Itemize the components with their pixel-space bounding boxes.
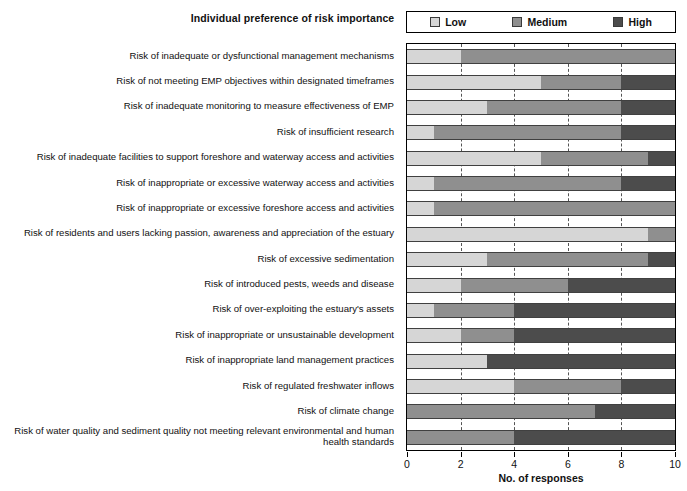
y-axis-label: Risk of introduced pests, weeds and dise… <box>204 278 394 290</box>
stacked-bar <box>407 151 675 166</box>
bar-segment-medium <box>648 227 675 242</box>
x-axis-title: No. of responses <box>406 472 676 484</box>
x-axis-tick-label: 8 <box>618 458 624 470</box>
y-axis-label: Risk of inadequate facilities to support… <box>37 151 394 163</box>
bar-segment-medium <box>434 303 514 318</box>
legend-item-high: High <box>613 16 651 28</box>
x-axis-tick <box>407 452 408 457</box>
legend-swatch-medium-icon <box>512 17 522 27</box>
bar-segment-high <box>621 176 675 191</box>
stacked-bar <box>407 252 675 267</box>
bar-segment-high <box>487 354 675 369</box>
bar-segment-low <box>407 176 434 191</box>
x-axis-tick-label: 10 <box>669 458 681 470</box>
x-axis-tick-label: 6 <box>565 458 571 470</box>
legend-item-medium: Medium <box>512 16 567 28</box>
bar-segment-low <box>407 303 434 318</box>
legend-label-medium: Medium <box>527 16 567 28</box>
stacked-bar <box>407 404 675 419</box>
stacked-bar <box>407 125 675 140</box>
bar-segment-high <box>595 404 675 419</box>
x-axis-tick-label: 0 <box>404 458 410 470</box>
bar-segment-low <box>407 252 487 267</box>
legend-item-low: Low <box>430 16 466 28</box>
bar-segment-medium <box>461 328 515 343</box>
bar-segment-medium <box>434 176 622 191</box>
bar-segment-low <box>407 227 648 242</box>
x-axis-tick <box>461 452 462 457</box>
bar-segment-low <box>407 75 541 90</box>
chart-legend: Low Medium High <box>406 11 676 33</box>
stacked-bar <box>407 176 675 191</box>
y-axis-label: Risk of not meeting EMP objectives withi… <box>116 75 394 87</box>
y-axis-label: Risk of inappropriate or excessive water… <box>116 177 394 189</box>
y-axis-label: Risk of regulated freshwater inflows <box>243 380 394 392</box>
x-axis-tick <box>621 452 622 457</box>
bar-segment-high <box>648 151 675 166</box>
legend-label-high: High <box>628 16 651 28</box>
bar-segment-medium <box>434 201 675 216</box>
bar-segment-medium <box>407 404 595 419</box>
stacked-bar <box>407 100 675 115</box>
stacked-bar <box>407 430 675 445</box>
y-axis-category-labels: Risk of inadequate or dysfunctional mana… <box>0 43 400 451</box>
chart-figure: Individual preference of risk importance… <box>0 0 687 491</box>
y-axis-label: Risk of inappropriate land management pr… <box>185 354 394 366</box>
bar-segment-medium <box>407 430 514 445</box>
legend-swatch-low-icon <box>430 17 440 27</box>
bar-segment-low <box>407 151 541 166</box>
bar-segment-medium <box>541 75 621 90</box>
bar-segment-high <box>648 252 675 267</box>
stacked-bar <box>407 201 675 216</box>
x-axis-tick-label: 4 <box>511 458 517 470</box>
bar-segment-medium <box>487 252 648 267</box>
bar-segment-medium <box>541 151 648 166</box>
y-axis-label: Risk of residents and users lacking pass… <box>24 227 394 239</box>
bar-segment-low <box>407 278 461 293</box>
chart-title: Individual preference of risk importance <box>180 12 405 24</box>
plot-inner <box>407 44 675 450</box>
stacked-bar <box>407 227 675 242</box>
stacked-bar <box>407 49 675 64</box>
bar-segment-low <box>407 49 461 64</box>
y-axis-label: Risk of inadequate or dysfunctional mana… <box>129 50 394 62</box>
bar-segment-medium <box>514 379 621 394</box>
stacked-bar <box>407 328 675 343</box>
bar-segment-high <box>621 379 675 394</box>
stacked-bar <box>407 303 675 318</box>
bar-segment-low <box>407 354 487 369</box>
bar-segment-high <box>514 430 675 445</box>
y-axis-label: Risk of insufficient research <box>277 126 394 138</box>
bar-segment-medium <box>461 278 568 293</box>
stacked-bar <box>407 379 675 394</box>
bar-segment-low <box>407 125 434 140</box>
bar-segment-low <box>407 201 434 216</box>
plot-area <box>406 43 676 451</box>
y-axis-label: Risk of water quality and sediment quali… <box>0 425 394 448</box>
bar-segment-low <box>407 100 487 115</box>
y-axis-label: Risk of excessive sedimentation <box>257 253 394 265</box>
bar-segment-high <box>514 328 675 343</box>
x-axis-tick <box>675 452 676 457</box>
y-axis-label: Risk of inappropriate or unsustainable d… <box>175 329 394 341</box>
x-axis-tick <box>568 452 569 457</box>
bar-segment-low <box>407 379 514 394</box>
y-axis-label: Risk of climate change <box>297 405 394 417</box>
stacked-bar <box>407 278 675 293</box>
y-axis-label: Risk of inadequate monitoring to measure… <box>124 100 394 112</box>
y-axis-label: Risk of inappropriate or excessive fores… <box>116 202 394 214</box>
bar-segment-high <box>621 100 675 115</box>
bar-segment-high <box>621 75 675 90</box>
bar-segment-high <box>568 278 675 293</box>
bar-segment-medium <box>461 49 675 64</box>
bar-segment-low <box>407 328 461 343</box>
legend-swatch-high-icon <box>613 17 623 27</box>
stacked-bar <box>407 75 675 90</box>
bar-segment-high <box>514 303 675 318</box>
y-axis-label: Risk of over-exploiting the estuary's as… <box>212 303 394 315</box>
x-axis-tick-label: 2 <box>458 458 464 470</box>
bar-segment-medium <box>487 100 621 115</box>
legend-label-low: Low <box>445 16 466 28</box>
stacked-bar <box>407 354 675 369</box>
bar-segment-high <box>621 125 675 140</box>
